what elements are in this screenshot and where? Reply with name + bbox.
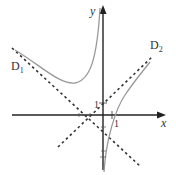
x-tick-label: 1 xyxy=(114,118,119,129)
asymptote-d1 xyxy=(12,48,140,166)
y-tick-label: 1 xyxy=(94,99,99,110)
curve-left-branch xyxy=(15,8,100,83)
d2-label: D2 xyxy=(150,38,163,54)
asymptote-d2 xyxy=(58,57,152,147)
curve-right-branch xyxy=(104,62,150,172)
d1-label: D1 xyxy=(11,59,24,75)
hyperbola-diagram: y x 1 1 D1 D2 xyxy=(0,0,176,175)
y-axis-label: y xyxy=(89,4,96,18)
x-axis-label: x xyxy=(160,116,167,130)
